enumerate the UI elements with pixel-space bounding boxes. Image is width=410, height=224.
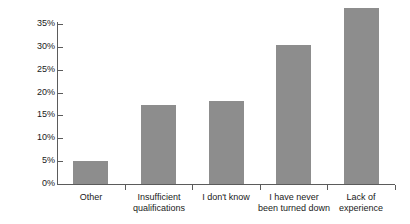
- y-axis-tick-label: 5%: [11, 156, 55, 165]
- x-axis-tick: [192, 185, 193, 190]
- y-axis-tick-label: 0%: [11, 179, 55, 188]
- x-axis-tick: [327, 185, 328, 190]
- y-axis-tick: [58, 70, 63, 71]
- y-axis-tick-label: 15%: [11, 110, 55, 119]
- bar: [73, 161, 108, 184]
- y-axis-tick-label: 10%: [11, 133, 55, 142]
- y-axis-tick-label: 25%: [11, 65, 55, 74]
- x-axis-tick: [125, 185, 126, 190]
- y-axis-tick-label: 20%: [11, 88, 55, 97]
- y-axis-tick: [58, 93, 63, 94]
- y-axis-tick-label: 35%: [11, 19, 55, 28]
- bar: [209, 101, 244, 184]
- x-axis-category-label: Lack of experience: [320, 192, 402, 214]
- bar: [141, 105, 176, 184]
- y-axis-tick: [58, 24, 63, 25]
- x-axis-line: [57, 184, 395, 185]
- x-axis-tick: [395, 185, 396, 190]
- y-axis-tick: [58, 161, 63, 162]
- y-axis-tick: [58, 138, 63, 139]
- y-axis-tick: [58, 47, 63, 48]
- bar: [344, 8, 379, 184]
- x-axis-tick: [260, 185, 261, 190]
- bar: [276, 45, 311, 184]
- y-axis-tick: [58, 184, 63, 185]
- y-axis-tick-label: 30%: [11, 42, 55, 51]
- bar-chart: 0%5%10%15%20%25%30%35% OtherInsufficient…: [0, 0, 410, 224]
- y-axis-tick: [58, 115, 63, 116]
